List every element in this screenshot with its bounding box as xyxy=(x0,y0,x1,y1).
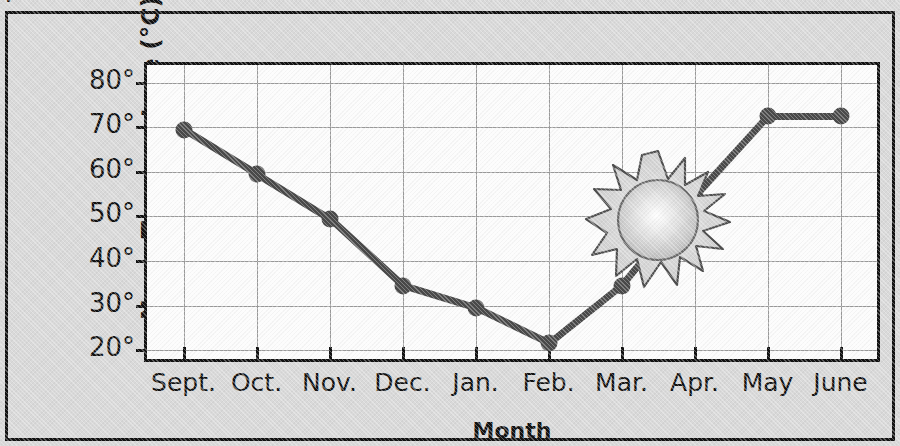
y-axis-tick-label: 30° xyxy=(89,288,135,318)
y-axis-tick-label: 40° xyxy=(89,243,135,273)
x-axis-tick xyxy=(548,347,551,359)
chart-figure: Noon Temperature (°C) 20°30°40°50°60°70°… xyxy=(5,11,895,441)
sun-icon xyxy=(584,149,732,291)
gridline-vertical xyxy=(257,65,258,359)
x-axis-tick xyxy=(475,347,478,359)
x-axis-tick-label: Mar. xyxy=(595,368,648,397)
x-axis-tick-label: Dec. xyxy=(374,368,430,397)
x-axis-tick-label: June xyxy=(813,368,867,397)
gridline-vertical xyxy=(841,65,842,359)
gridline-vertical xyxy=(403,65,404,359)
gridline-vertical xyxy=(476,65,477,359)
gridline-vertical xyxy=(330,65,331,359)
y-axis-tick-label: 50° xyxy=(89,198,135,228)
gridlines xyxy=(147,65,877,359)
y-axis-tick-label: 20° xyxy=(89,332,135,362)
y-axis-tick xyxy=(136,305,147,308)
y-axis-tick-label: 80° xyxy=(89,65,135,95)
x-axis-tick xyxy=(402,347,405,359)
cut-off-headline-text: p xyxy=(0,0,900,2)
x-axis-tick xyxy=(767,347,770,359)
y-axis-tick-labels: 20°30°40°50°60°70°80° xyxy=(63,62,135,362)
x-axis-tick-label: Nov. xyxy=(302,368,357,397)
gridline-vertical xyxy=(549,65,550,359)
x-axis-tick xyxy=(621,347,624,359)
plot-area xyxy=(144,62,880,362)
x-axis-tick-label: Apr. xyxy=(670,368,719,397)
x-axis-tick-label: Jan. xyxy=(452,368,498,397)
y-axis-tick-label: 60° xyxy=(89,154,135,184)
x-axis-tick-label: May xyxy=(742,368,794,397)
x-axis-tick-labels: Sept.Oct.Nov.Dec.Jan.Feb.Mar.Apr.MayJune xyxy=(144,368,880,402)
gridline-vertical xyxy=(184,65,185,359)
x-axis-tick-label: Oct. xyxy=(231,368,282,397)
x-axis-tick-label: Sept. xyxy=(151,368,216,397)
x-axis-tick xyxy=(694,347,697,359)
x-axis-tick xyxy=(183,347,186,359)
y-axis-tick xyxy=(136,82,147,85)
x-axis-tick xyxy=(329,347,332,359)
x-axis-tick xyxy=(840,347,843,359)
x-axis-tick xyxy=(256,347,259,359)
y-axis-tick xyxy=(136,349,147,352)
y-axis-tick xyxy=(136,126,147,129)
x-axis-tick-label: Feb. xyxy=(522,368,574,397)
y-axis-tick xyxy=(136,260,147,263)
y-axis-tick-label: 70° xyxy=(89,109,135,139)
y-axis-tick xyxy=(136,215,147,218)
x-axis-title: Month xyxy=(139,418,885,443)
gridline-vertical xyxy=(768,65,769,359)
y-axis-tick xyxy=(136,171,147,174)
